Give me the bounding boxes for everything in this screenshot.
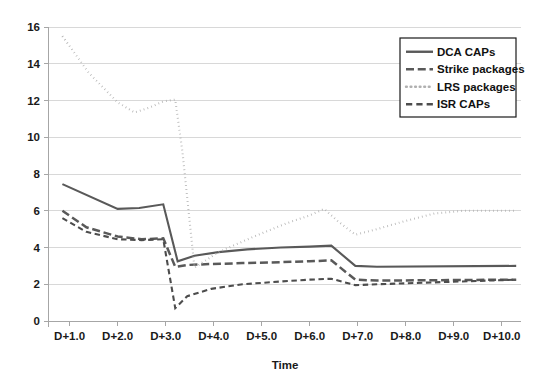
- y-axis-tick-label: 12: [27, 95, 40, 107]
- chart-container: 0246810121416 D+1.0D+2.0D+3.0D+4.0D+5.0D…: [0, 0, 554, 380]
- legend-item-label: DCA CAPs: [437, 46, 495, 58]
- legend: DCA CAPsStrike packagesLRS packagesISR C…: [400, 38, 525, 117]
- x-axis-tick-label: D+8.0: [390, 330, 421, 342]
- legend-item-label: Strike packages: [437, 63, 525, 75]
- x-axis-tick-label: D+3.0: [150, 330, 181, 342]
- x-axis-tick-label: D+2.0: [102, 330, 133, 342]
- x-axis-tick-label: D+9.0: [438, 330, 469, 342]
- x-axis-tick-label: D+1.0: [54, 330, 85, 342]
- x-axis-title: Time: [272, 359, 299, 371]
- y-axis-tick-label: 8: [34, 168, 41, 180]
- y-axis-tick-label: 0: [34, 315, 40, 327]
- x-axis-tick-label: D+10.0: [483, 330, 520, 342]
- legend-item-label: ISR CAPs: [437, 98, 490, 110]
- x-axis-tick-label: D+5.0: [246, 330, 277, 342]
- y-axis-tick-label: 10: [27, 131, 40, 143]
- y-axis-tick-label: 6: [34, 205, 40, 217]
- series-line-strike-packages: [62, 211, 516, 281]
- legend-item-label: LRS packages: [437, 81, 516, 93]
- y-axis-tick-label: 14: [27, 58, 40, 70]
- y-axis-tick-labels: 0246810121416: [27, 21, 40, 327]
- x-axis-tick-labels: D+1.0D+2.0D+3.0D+4.0D+5.0D+6.0D+7.0D+8.0…: [54, 330, 520, 342]
- y-axis-tick-label: 4: [34, 242, 41, 254]
- x-axis-tick-label: D+7.0: [342, 330, 373, 342]
- line-chart: 0246810121416 D+1.0D+2.0D+3.0D+4.0D+5.0D…: [0, 0, 554, 380]
- y-axis-tick-label: 16: [27, 21, 40, 33]
- x-axis-tick-label: D+4.0: [198, 330, 229, 342]
- x-axis-tick-label: D+6.0: [294, 330, 325, 342]
- y-axis-tick-label: 2: [34, 278, 40, 290]
- series-line-dca-caps: [62, 184, 516, 267]
